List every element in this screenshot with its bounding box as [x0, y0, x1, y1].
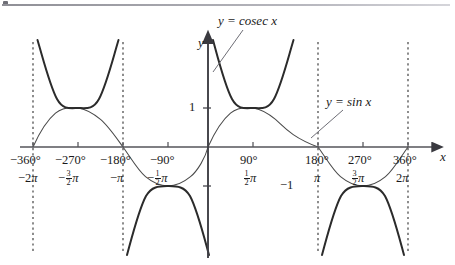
rad-sign: − [58, 171, 65, 185]
rad-pi: π [402, 171, 408, 185]
y-tick-label-minus-1: −1 [280, 179, 293, 192]
x-label-rad-1-2-pi: 12π [243, 170, 256, 188]
rad-fraction: 12 [155, 170, 161, 188]
x-label-deg-minus-270: −270° [55, 154, 86, 167]
cosec-leader-line [213, 30, 243, 72]
rad-pi: π [250, 171, 256, 185]
x-label-deg-360: 360° [393, 154, 417, 167]
rad-sign: − [110, 171, 117, 185]
x-label-rad-3-2-pi: 32π [351, 170, 364, 188]
cosec-branch-3 [213, 40, 294, 108]
x-label-rad-minus-3-2-pi: −32π [58, 170, 78, 188]
sine-curve-label: y = sin x [326, 95, 371, 108]
rad-fraction: 32 [352, 170, 358, 188]
graph-canvas [0, 0, 455, 265]
rad-denominator: 2 [244, 179, 250, 187]
x-label-rad-minus-pi: −π [110, 172, 123, 185]
rad-pi: π [161, 171, 167, 185]
y-tick-label-1: 1 [189, 101, 195, 114]
cosec-curve-label: y = cosec x [218, 14, 277, 27]
x-label-deg-minus-360: −360° [10, 154, 41, 167]
rad-pi: π [314, 171, 320, 185]
rad-denominator: 2 [352, 179, 358, 187]
rad-pi: π [31, 171, 37, 185]
cosec-branch-4 [322, 186, 404, 255]
cosec-branch-2 [127, 186, 209, 255]
x-label-deg-minus-90: −90° [150, 154, 175, 167]
x-label-rad-minus-1-2-pi: −12π [147, 170, 167, 188]
x-label-rad-pi: π [314, 172, 320, 185]
rad-fraction: 12 [244, 170, 250, 188]
rad-denominator: 2 [155, 179, 161, 187]
x-axis-label: x [440, 150, 446, 163]
rad-sign: − [18, 171, 25, 185]
rad-fraction: 32 [66, 170, 72, 188]
rad-pi: π [72, 171, 78, 185]
y-axis-label: y [198, 36, 204, 49]
x-label-deg-180: 180° [305, 154, 329, 167]
cosec-sine-graph-figure: y x 1 −1 −360° −270° −180° −90° 90° 180°… [0, 0, 455, 265]
cosec-branch-1 [38, 40, 119, 108]
sin-leader-line [311, 110, 343, 138]
x-label-rad-minus-2pi: −2π [18, 172, 38, 185]
rad-pi: π [117, 171, 123, 185]
x-label-deg-90: 90° [240, 154, 258, 167]
rad-denominator: 2 [66, 179, 72, 187]
rad-pi: π [358, 171, 364, 185]
x-label-deg-minus-180: −180° [100, 154, 131, 167]
rad-sign: − [147, 171, 154, 185]
x-label-rad-2pi: 2π [396, 172, 409, 185]
x-label-deg-270: 270° [348, 154, 372, 167]
